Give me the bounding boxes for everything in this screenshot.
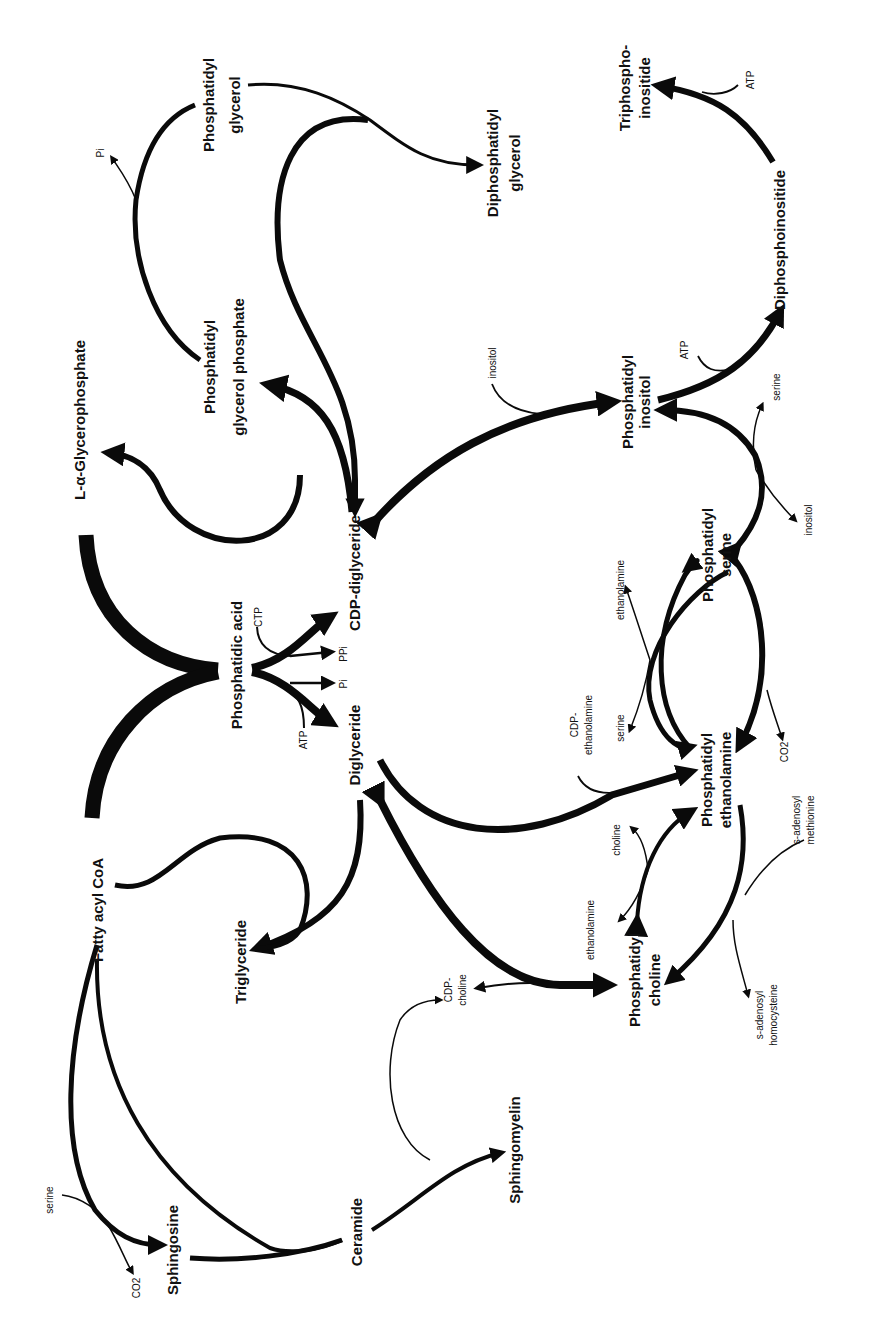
edge-pi-release-pgp [112,158,136,200]
edge-choline-in [632,828,648,870]
cofactor-ppi: PPi [338,646,349,662]
node-sphingosine: Sphingosine [164,1205,181,1295]
lipid-pathway-diagram: Fatty acyl CoA L-α-Glycerophosphate Phos… [0,0,877,1325]
cofactor-serine-out-pi: serine [771,373,782,401]
cofactor-sam-line1: s-adenosyl [791,796,802,844]
pathway-labels: Fatty acyl CoA L-α-Glycerophosphate Phos… [44,45,816,1299]
cofactor-co2-ps: CO2 [779,741,790,762]
pathway-arrows [62,84,804,1272]
edge-pa-to-dg [252,672,330,722]
edge-ppi-out [290,652,330,656]
node-tpi-line1: Triphospho- [616,45,633,132]
edge-pg-to-cdpdg [278,119,368,510]
cofactor-sam-line2: methionine [805,795,816,844]
edge-atp-in-pi [698,356,728,371]
edge-pgp-to-pg [135,105,200,360]
node-pi-line1: Phosphatidyl [619,355,636,449]
node-pc-line2: choline [646,954,663,1007]
edge-fattyacyl-to-tg [115,837,307,948]
cofactor-atp-pa: ATP [298,730,309,749]
node-dpg-line2: glycerol [506,134,523,192]
node-pe-line1: Phosphatidyl [698,733,715,827]
edge-dg-to-tg [258,800,361,948]
cofactor-cdp-eth-line2: ethanolamine [583,695,594,755]
edge-cdp-choline-to-sphingomyelin [390,1000,440,1160]
edge-atp-in-dpi [702,85,738,94]
node-dpg-line1: Diphosphatidyl [484,109,501,217]
edge-sah-out [733,920,748,995]
cofactor-pi-pa: Pi [338,680,349,689]
cofactor-sah-line1: s-adenosyl [754,991,765,1039]
cofactor-co2-sph: CO2 [131,1277,142,1298]
node-pe-line2: ethanolamine [717,732,734,829]
cofactor-cdp-cho-line1: CDP- [443,978,454,1002]
cofactor-choline-in: choline [611,824,622,856]
cofactor-atp-dpi: ATP [745,70,756,89]
edge-cdp-choline-out [478,983,530,988]
edge-sam-in [745,840,804,895]
node-ps-line2: serine [717,533,734,577]
cofactor-ethanolamine-out-ps: ethanolamine [615,560,626,620]
edge-cdpdg-to-glycerophosphate [110,453,300,541]
node-pg-line1: Phosphatidyl [200,58,217,152]
edge-pc-pe [637,812,690,922]
edge-pi-to-dpi [658,312,780,400]
cofactor-atp-pi: ATP [679,340,690,359]
node-triglyceride: Triglyceride [232,920,249,1004]
edge-ethanolamine-out-ps [626,588,650,660]
edge-fattyacyl-to-sphingosine [71,945,160,1245]
node-phosphatidic-acid: Phosphatidic acid [228,601,245,729]
edge-cdp-ethanolamine-in [578,776,620,793]
node-pc-line1: Phosphatidyl [626,933,643,1027]
edge-inositol-in [492,384,540,414]
node-pi-line2: inositol [636,375,653,428]
node-glycerophosphate: L-α-Glycerophosphate [71,340,88,500]
cofactor-inositol-ps: inositol [803,504,814,535]
cofactor-ctp: CTP [253,607,264,627]
cofactor-sah-line2: homocysteine [768,984,779,1046]
node-pg-line2: glycerol [226,76,243,134]
edge-glycerophosphate-to-pa [86,535,218,670]
node-fatty-acyl-coa: Fatty acyl CoA [89,858,106,962]
cofactor-serine-sph: serine [44,1186,55,1214]
node-diglyceride: Diglyceride [346,705,363,786]
cofactor-cdp-eth-line1: CDP- [569,713,580,737]
cofactor-pi-pgp: Pi [95,149,106,158]
cofactor-inositol-in: inositol [487,347,498,378]
cofactor-ethanolamine-out-pc: ethanolamine [585,900,596,960]
edge-cdpdg-pi [376,402,612,520]
node-pgp-line1: Phosphatidyl [201,320,218,414]
cofactor-cdp-cho-line2: choline [457,974,468,1006]
node-sphingomyelin: Sphingomyelin [506,1096,523,1204]
node-ps-line1: Phosphatidyl [699,508,716,602]
cofactor-serine-in-pe: serine [615,714,626,742]
edge-ceramide-to-sphingomyelin [372,1153,500,1230]
node-ceramide: Ceramide [348,1198,365,1266]
edge-pg-to-dpg [248,84,477,165]
node-tpi-line2: inositide [636,57,653,119]
edge-co2-out-ps [767,690,782,738]
edge-dpi-to-tpi [660,86,773,162]
edge-pe-to-pc [670,805,743,980]
edge-ps-to-pe [735,560,762,745]
edge-pe-to-ps [661,561,697,748]
node-dpi: Diphosphoinositide [771,170,788,310]
node-cdp-diglyceride: CDP-diglyceride [346,515,363,631]
edge-dg-to-pe [380,760,690,830]
node-pgp-line2: glycerol phosphate [230,298,247,436]
edge-fattyacyl-to-ceramide [97,960,342,1251]
edge-fattyacyl-to-pa [92,672,218,818]
